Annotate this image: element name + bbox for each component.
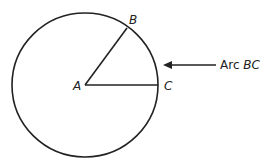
circle-diagram: A B C Arc BC: [0, 0, 263, 162]
radius-ab: [85, 28, 127, 85]
arc-annotation-prefix: Arc: [220, 58, 243, 72]
label-c: C: [164, 80, 172, 92]
arrow-head-icon: [163, 61, 172, 69]
label-b: B: [129, 14, 137, 26]
arc-annotation: Arc BC: [220, 59, 260, 71]
arc-annotation-name: BC: [243, 58, 260, 72]
label-a: A: [73, 80, 81, 92]
